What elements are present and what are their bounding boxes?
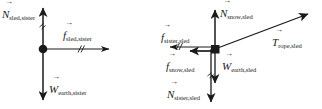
vector-accent-icon: → <box>170 78 178 86</box>
force-subscript: sister,sled <box>164 37 190 44</box>
vector-accent-icon: → <box>163 21 171 29</box>
force-subscript: snow,sled <box>169 66 194 73</box>
force-symbol: W <box>49 83 58 95</box>
force-subscript: rope,sled <box>278 42 302 49</box>
force-subscript: sled,sister <box>66 35 92 42</box>
vector-accent-icon: → <box>223 0 231 5</box>
label-weight-earth-sister: → Wearth,sister <box>49 80 87 96</box>
label-normal-snow-sled: → Nsnow,sled <box>220 4 253 20</box>
label-friction-sled-sister: → fsled,sister <box>63 26 92 42</box>
free-body-diagram-figure: → Nsled,sister → fsled,sister → Wearth,s… <box>0 0 322 109</box>
vector-accent-icon: → <box>65 19 73 27</box>
force-subscript: sister,sled <box>174 94 200 101</box>
force-subscript: earth,sled <box>231 66 256 73</box>
vector-accent-icon: → <box>275 26 283 34</box>
label-friction-snow-sled: → fsnow,sled <box>166 57 194 73</box>
label-normal-sled-sister: → Nsled,sister <box>2 5 35 21</box>
vector-accent-icon: → <box>168 50 176 58</box>
origin-dot-sister <box>39 45 48 54</box>
force-symbol: W <box>222 60 231 72</box>
vector-accent-icon: → <box>5 0 13 6</box>
label-friction-sister-sled: → fsister,sled <box>161 28 190 44</box>
label-tension-rope-sled: → Trope,sled <box>272 33 302 49</box>
force-subscript: earth,sister <box>58 89 86 96</box>
vector-accent-icon: → <box>225 50 233 58</box>
origin-square-sled <box>211 45 220 54</box>
label-normal-sister-sled: → Nsister,sled <box>167 85 200 101</box>
label-weight-earth-sled: → Wearth,sled <box>222 57 256 73</box>
force-subscript: sled,sister <box>9 14 35 21</box>
force-subscript: snow,sled <box>227 13 252 20</box>
vector-accent-icon: → <box>52 73 60 81</box>
